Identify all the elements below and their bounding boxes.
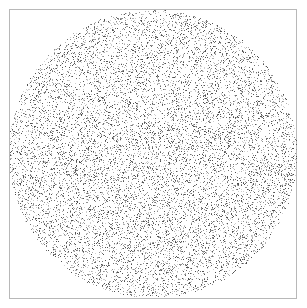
- scatter-plot-disk: [0, 0, 307, 308]
